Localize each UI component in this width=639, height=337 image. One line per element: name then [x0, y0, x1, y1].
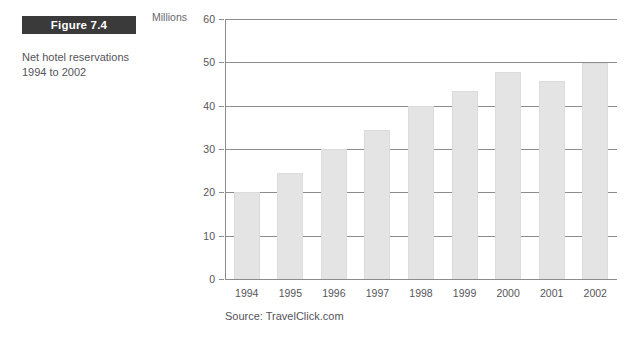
x-axis-tick-label: 1998 — [409, 287, 432, 299]
y-axis-tick — [219, 149, 224, 150]
source-note: Source: TravelClick.com — [225, 310, 344, 322]
y-axis-tick-label: 60 — [203, 13, 215, 25]
y-axis-tick — [219, 192, 224, 193]
y-axis-tick — [219, 62, 224, 63]
bar-2002 — [582, 63, 608, 279]
bar-2000 — [495, 72, 521, 279]
x-axis-tick-label: 1996 — [322, 287, 345, 299]
x-axis-tick-label: 1997 — [366, 287, 389, 299]
gridline — [225, 62, 617, 63]
bar-chart: Millions 0102030405060 19941995199619971… — [0, 0, 639, 337]
y-axis-tick — [219, 106, 224, 107]
bar-1997 — [364, 130, 390, 279]
bar-1995 — [277, 173, 303, 279]
x-axis-tick-label: 2001 — [540, 287, 563, 299]
bar-1999 — [452, 91, 478, 280]
y-axis-tick — [219, 19, 224, 20]
gridline — [225, 279, 617, 280]
y-axis-tick-label: 20 — [203, 186, 215, 198]
y-axis-tick-label: 40 — [203, 100, 215, 112]
x-axis-tick-label: 2002 — [584, 287, 607, 299]
bar-1996 — [321, 149, 347, 279]
y-axis-title: Millions — [152, 11, 187, 23]
bar-1994 — [234, 192, 260, 279]
y-axis-tick — [219, 279, 224, 280]
y-axis-tick-label: 50 — [203, 56, 215, 68]
gridline — [225, 19, 617, 20]
y-axis-tick-label: 10 — [203, 230, 215, 242]
bar-1998 — [408, 106, 434, 279]
x-axis-tick-label: 1995 — [279, 287, 302, 299]
x-axis-tick-label: 2000 — [496, 287, 519, 299]
x-axis-tick-label: 1994 — [235, 287, 258, 299]
bar-2001 — [539, 81, 565, 279]
y-axis-tick — [219, 236, 224, 237]
x-axis-tick-label: 1999 — [453, 287, 476, 299]
y-axis-tick-label: 0 — [209, 273, 215, 285]
plot-area: 0102030405060 19941995199619971998199920… — [225, 19, 617, 279]
y-axis-tick-label: 30 — [203, 143, 215, 155]
